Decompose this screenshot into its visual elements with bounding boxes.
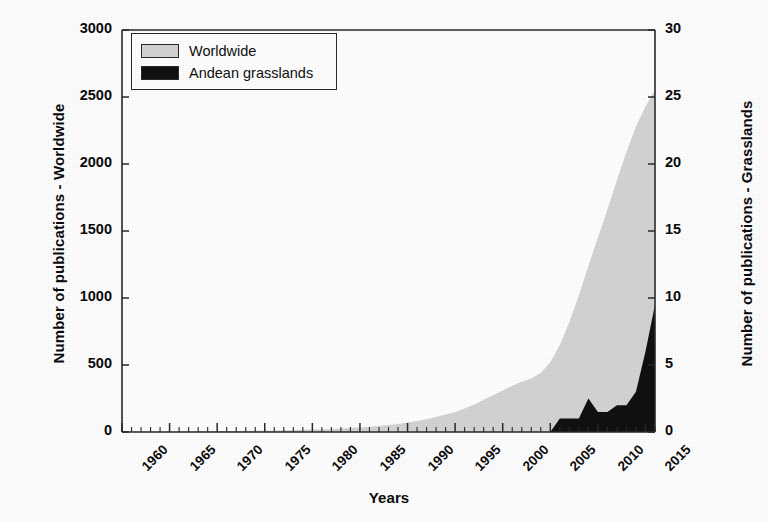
y-right-tick-label-0: 0 (665, 422, 727, 438)
legend-item-worldwide: Worldwide (141, 40, 336, 62)
figure-canvas: Worldwide Andean grasslands Number of pu… (0, 0, 768, 522)
legend-swatch-andean-grasslands (141, 66, 179, 80)
y-right-tick-label-5: 5 (665, 355, 727, 371)
x-axis-title: Years (122, 489, 656, 506)
y-axis-right-title: Number of publications - Grasslands (738, 69, 755, 399)
y-left-tick-label-0: 0 (50, 422, 112, 438)
legend-item-andean-grasslands: Andean grasslands (141, 62, 336, 84)
y-left-tick-label-500: 500 (50, 355, 112, 371)
y-left-tick-label-3000: 3000 (50, 20, 112, 36)
area-chart-plot (0, 0, 768, 522)
y-right-tick-label-30: 30 (665, 20, 727, 36)
legend-label-andean-grasslands: Andean grasslands (189, 65, 313, 81)
y-left-tick-label-1000: 1000 (50, 288, 112, 304)
y-left-tick-label-2000: 2000 (50, 154, 112, 170)
legend-swatch-worldwide (141, 44, 179, 58)
y-right-tick-label-25: 25 (665, 87, 727, 103)
legend-label-worldwide: Worldwide (189, 43, 256, 59)
y-right-tick-label-10: 10 (665, 288, 727, 304)
chart-legend: Worldwide Andean grasslands (131, 33, 337, 90)
y-right-tick-label-15: 15 (665, 221, 727, 237)
y-left-tick-label-2500: 2500 (50, 87, 112, 103)
y-left-tick-label-1500: 1500 (50, 221, 112, 237)
y-right-tick-label-20: 20 (665, 154, 727, 170)
